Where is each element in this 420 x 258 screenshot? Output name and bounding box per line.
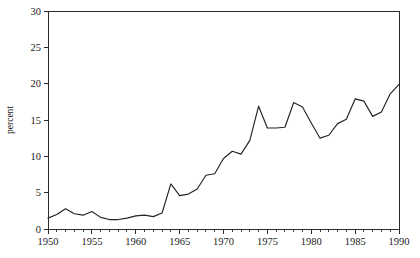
x-tick-label: 1985 [345,236,366,247]
y-tick-label: 10 [31,151,42,162]
y-axis-title-text: percent [5,106,15,134]
x-tick-label: 1980 [301,236,322,247]
chart-container: 051015202530 195019551960196519701975198… [0,0,420,258]
x-tick-label: 1990 [389,236,410,247]
y-tick-label: 5 [36,187,41,198]
y-tick-label: 0 [36,224,41,235]
x-tick-label: 1970 [213,236,234,247]
x-tick-label: 1960 [125,236,146,247]
line-chart: 051015202530 195019551960196519701975198… [0,0,420,258]
y-axis-tick-labels: 051015202530 [31,6,42,235]
x-axis-tick-labels: 195019551960196519701975198019851990 [38,236,410,247]
x-tick-label: 1965 [169,236,190,247]
x-tick-label: 1975 [257,236,278,247]
plot-frame [48,11,399,229]
x-tick-label: 1955 [81,236,102,247]
data-series-group [48,84,399,219]
y-tick-label: 20 [31,78,42,89]
y-tick-label: 15 [31,115,42,126]
y-tick-label: 30 [31,6,42,17]
x-tick-label: 1950 [38,236,59,247]
y-tick-label: 25 [31,42,42,53]
series-line-percent [48,84,399,219]
y-axis-title: percent [5,106,15,134]
y-axis-ticks [44,11,48,229]
